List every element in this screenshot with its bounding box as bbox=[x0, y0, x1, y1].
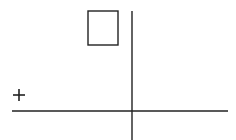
diagram-canvas bbox=[0, 0, 236, 140]
square-shape bbox=[88, 11, 118, 45]
plus-icon bbox=[13, 89, 25, 101]
